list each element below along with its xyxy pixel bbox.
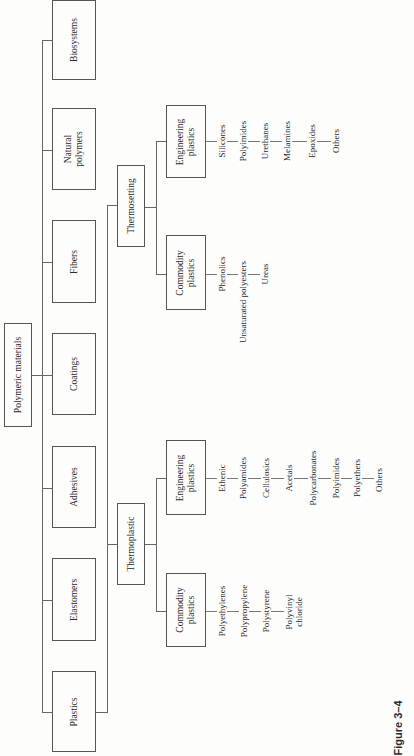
list-item: Polyethylenes	[217, 583, 227, 640]
category-biosystems: Biosystems	[52, 0, 96, 80]
list-item: Polyvinyl chloride	[284, 591, 304, 632]
list-item: Polyimides	[331, 455, 341, 502]
list-item: Urethanes	[260, 120, 270, 162]
list-item: Ethenic	[217, 461, 227, 495]
connector-biosystems	[42, 40, 52, 41]
node-label: Commodity plastics	[175, 587, 197, 632]
list-item: Others	[374, 465, 384, 495]
list-item: Phenolics	[217, 254, 227, 295]
category-label: Elastomers	[69, 578, 80, 620]
connector-coatings	[42, 375, 52, 376]
thermoset-spine	[156, 141, 157, 275]
thermoset-connector	[145, 207, 156, 208]
thermoplastic-connector	[145, 544, 156, 545]
category-label: Fibers	[69, 250, 80, 274]
list-item: Epoxides	[307, 121, 317, 161]
list-item: Others	[331, 126, 341, 156]
list-item: Polyamides	[238, 454, 248, 502]
node-label: Engineering plastics	[175, 454, 197, 500]
list-item: Polyimides	[238, 118, 248, 165]
node-thermoplastic-engineering: Engineering plastics	[166, 440, 206, 515]
connector	[156, 478, 166, 479]
category-elastomers: Elastomers	[52, 558, 96, 641]
list-item: Polystyrene	[261, 587, 271, 636]
category-adhesives: Adhesives	[52, 446, 96, 528]
connector-thermoplastic	[107, 544, 117, 545]
category-label: Coatings	[69, 357, 80, 391]
list-item: Acetals	[284, 462, 294, 495]
node-label: Commodity plastics	[175, 250, 197, 295]
list-item: Polycarbonates	[308, 448, 318, 509]
list-item: Ureas	[260, 261, 270, 288]
connector-natural-polymers	[42, 150, 52, 151]
category-label: Adhesives	[69, 467, 80, 507]
category-label: Biosystems	[69, 18, 80, 62]
connector-plastics	[42, 712, 52, 713]
root-connector	[32, 375, 42, 376]
connector	[156, 611, 166, 612]
root-label: Polymeric materials	[13, 337, 24, 413]
connector	[156, 274, 166, 275]
figure-caption: Figure 3–4	[392, 700, 404, 755]
main-spine	[42, 40, 43, 712]
plastics-connector	[96, 712, 107, 713]
list-item: Polyethers	[352, 456, 362, 500]
node-thermosetting: Thermosetting	[117, 165, 145, 247]
list-item: Polypropylene	[239, 582, 249, 641]
connector-elastomers	[42, 600, 52, 601]
connector	[156, 141, 166, 142]
category-natural-polymers: Natural polymers	[52, 108, 96, 190]
node-thermoplastic-commodity: Commodity plastics	[166, 573, 206, 647]
node-label: Thermoplastic	[126, 517, 137, 572]
list-item: Cellulosics	[261, 455, 271, 501]
category-plastics: Plastics	[52, 671, 96, 752]
node-label: Engineering plastics	[175, 118, 197, 164]
category-coatings: Coatings	[52, 333, 96, 415]
category-fibers: Fibers	[52, 220, 96, 303]
list-item: Unsaturated polyesters	[238, 258, 248, 346]
root-node-polymeric-materials: Polymeric materials	[4, 323, 32, 427]
plastics-spine	[107, 205, 108, 713]
connector-adhesives	[42, 488, 52, 489]
node-thermoset-engineering: Engineering plastics	[166, 105, 206, 178]
list-item: Melamines	[282, 118, 292, 164]
category-label: Natural polymers	[63, 131, 85, 166]
category-label: Plastics	[69, 697, 80, 726]
item-chain	[206, 274, 266, 275]
node-label: Thermosetting	[126, 178, 137, 233]
thermoplastic-spine	[156, 478, 157, 612]
node-thermoset-commodity: Commodity plastics	[166, 235, 206, 310]
connector-fibers	[42, 262, 52, 263]
node-thermoplastic: Thermoplastic	[117, 503, 145, 585]
connector-thermosetting	[107, 205, 117, 206]
list-item: Silicones	[217, 122, 227, 161]
